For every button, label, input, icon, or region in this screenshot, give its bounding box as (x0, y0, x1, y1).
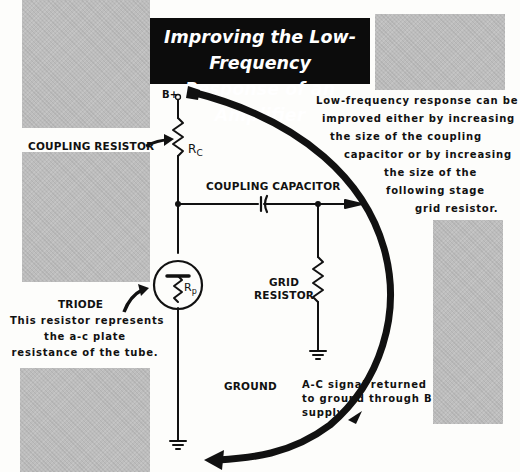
ground-label: GROUND (224, 380, 277, 392)
low-freq-note-line: grid resistor. (415, 203, 498, 214)
low-freq-note-line: improved either by increasing (322, 113, 515, 124)
junction-dot-icon (175, 201, 181, 207)
return-arrowhead-icon (204, 450, 224, 470)
coupling-resistor-label: COUPLING RESISTOR (28, 140, 154, 152)
low-freq-note-line: Low-frequency response can be (316, 95, 518, 106)
rp-symbol: R (184, 281, 192, 294)
coupling-resistor-icon (173, 118, 183, 156)
low-freq-note-line: the size of the coupling (330, 131, 482, 142)
triode-pointer-arrow-icon (124, 290, 142, 312)
triode-label: TRIODE (58, 298, 103, 310)
triode-note-line: resistance of the tube. (10, 345, 160, 361)
return-note-line: to ground through B (302, 392, 432, 406)
rc-subscript: C (197, 148, 203, 158)
rc-label: RC (188, 142, 203, 158)
coupling-capacitor-label: COUPLING CAPACITOR (206, 180, 341, 192)
grid-resistor-label-line2: RESISTOR (254, 289, 314, 302)
amplifier-schematic (0, 0, 520, 472)
triode-note: This resistor represents the a-c plate r… (10, 313, 160, 361)
grid-resistor-label-line1: GRID (254, 276, 314, 289)
return-note-line: supply (302, 406, 432, 420)
rc-symbol: R (188, 142, 197, 156)
low-freq-note-line: the size of the (384, 167, 477, 178)
triode-note-line: the a-c plate (10, 329, 160, 345)
low-freq-note-line: capacitor or by increasing (344, 149, 512, 160)
grid-resistor-icon (313, 257, 323, 302)
b-plus-label: B+ (162, 89, 178, 100)
junction-dot-icon (315, 201, 321, 207)
rp-label: Rp (184, 281, 197, 296)
grid-resistor-label: GRID RESISTOR (254, 276, 314, 302)
grid-ground-icon (310, 351, 326, 359)
triode-note-line: This resistor represents (10, 313, 160, 329)
main-ground-icon (170, 441, 186, 449)
return-note-line: A-C signal returned (302, 378, 432, 392)
low-freq-note-line: following stage (386, 185, 485, 196)
return-note: A-C signal returned to ground through B … (302, 378, 432, 420)
plate-resistance-icon (174, 276, 182, 302)
rp-subscript: p (192, 287, 197, 296)
